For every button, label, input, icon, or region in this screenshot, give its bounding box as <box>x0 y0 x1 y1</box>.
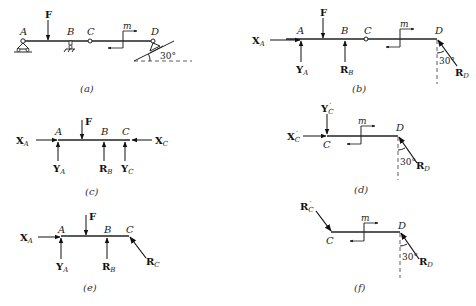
moment-m: m <box>108 21 137 48</box>
point-c: C <box>326 235 334 246</box>
force-rb-label: RB <box>99 163 112 176</box>
diagram-a: F m 30° A B C D (a) <box>14 9 192 94</box>
free-body-diagrams: F m 30° A B C D (a) XA <box>0 0 476 306</box>
force-xc-label: XC <box>155 135 169 148</box>
point-a: A <box>57 224 65 235</box>
force-f-label: F <box>45 9 52 20</box>
point-a: A <box>296 25 304 36</box>
svg-text:30°: 30° <box>402 252 418 262</box>
force-yc-prime-label: YC′ <box>320 102 334 116</box>
svg-text:m: m <box>400 19 409 29</box>
point-c: C <box>87 26 95 37</box>
force-f-label: F <box>85 116 92 127</box>
point-c: C <box>122 126 130 137</box>
svg-text:30°: 30° <box>400 157 416 167</box>
caption-a: (a) <box>80 83 94 94</box>
force-rd-label: RD <box>455 67 469 80</box>
force-xa-label: XA <box>16 135 29 148</box>
diagram-c: XA YA F RB YC XC A B C (c) <box>16 116 169 197</box>
force-rc-prime-label: RC′ <box>300 200 314 214</box>
point-b: B <box>340 25 348 36</box>
svg-text:30°: 30° <box>439 56 455 66</box>
moment-m: m <box>350 213 378 241</box>
hinge-c <box>88 39 92 43</box>
svg-text:m: m <box>123 21 132 31</box>
force-rc-arrow <box>130 237 146 258</box>
svg-text:30°: 30° <box>160 51 176 61</box>
caption-e: (e) <box>83 282 97 293</box>
diagram-d: XC′ YC′ m 30° RD C D (d) <box>287 102 430 195</box>
moment-m: m <box>386 19 414 47</box>
diagram-e: XA YA F RB RC A B C (e) <box>20 211 160 293</box>
incline-support-d: 30° <box>134 39 192 61</box>
roller-support-b <box>64 41 75 52</box>
caption-f: (f) <box>354 282 366 293</box>
force-rd-label: RD <box>419 256 433 269</box>
caption-d: (d) <box>354 184 368 195</box>
caption-c: (c) <box>85 186 99 197</box>
point-d: D <box>395 122 404 133</box>
diagram-f: RC′ m 30° RD C D (f) <box>300 200 433 293</box>
force-yc-label: YC <box>120 163 134 176</box>
force-ya-label: YA <box>55 261 68 274</box>
force-rc-label: RC <box>146 256 160 269</box>
point-c: C <box>364 25 372 36</box>
force-xc-prime-label: XC′ <box>287 130 301 144</box>
force-rd-label: RD <box>416 160 430 173</box>
force-xa-label: XA <box>252 35 265 48</box>
point-c: C <box>323 139 331 150</box>
point-d: D <box>150 26 159 37</box>
point-a: A <box>54 126 62 137</box>
force-f-label: F <box>89 211 96 222</box>
force-f-label: F <box>320 7 327 18</box>
point-b: B <box>100 126 108 137</box>
svg-text:m: m <box>358 116 367 126</box>
point-d: D <box>397 220 406 231</box>
force-ya-label: YA <box>52 163 65 176</box>
force-ya-label: YA <box>295 64 308 77</box>
point-d: D <box>434 25 443 36</box>
svg-text:m: m <box>361 213 370 223</box>
force-rc-prime-arrow <box>316 211 331 231</box>
point-c: C <box>126 224 134 235</box>
point-b: B <box>66 26 74 37</box>
point-a: A <box>19 26 27 37</box>
force-rb-label: RB <box>340 64 353 77</box>
force-xa-label: XA <box>20 232 33 245</box>
caption-b: (b) <box>352 83 366 94</box>
hinge-c <box>364 37 368 41</box>
force-rb-label: RB <box>102 261 115 274</box>
diagram-b: XA YA F RB m 30° RD A B C D (b) <box>252 7 469 94</box>
point-b: B <box>103 224 111 235</box>
moment-m: m <box>347 116 375 144</box>
